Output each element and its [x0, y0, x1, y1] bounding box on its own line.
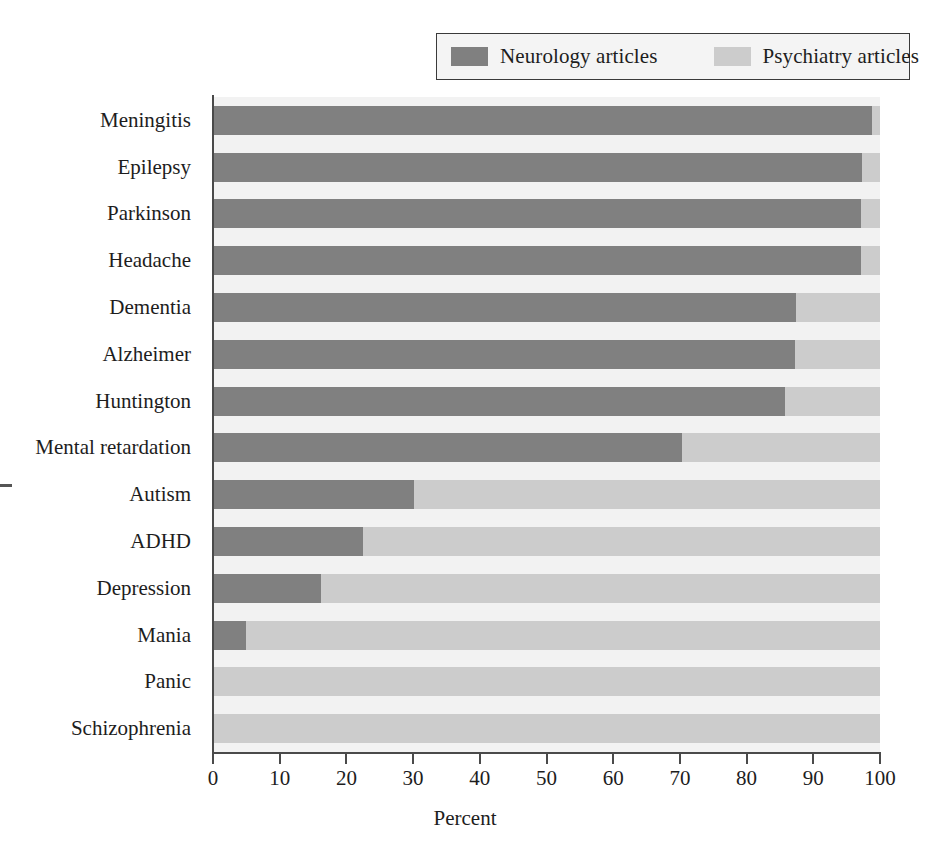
x-axis-title: Percent	[0, 806, 930, 831]
bar-row	[213, 714, 880, 743]
bar-segment-neurology	[213, 246, 861, 275]
bar-segment-psychiatry	[682, 433, 880, 462]
x-axis-tick-label: 60	[603, 766, 624, 791]
bar-segment-neurology	[213, 153, 862, 182]
x-axis-tick-label: 100	[864, 766, 896, 791]
x-axis-tick	[546, 754, 548, 764]
bar-segment-neurology	[213, 387, 785, 416]
y-axis-label: Alzheimer	[0, 340, 203, 369]
y-axis-line	[212, 95, 214, 754]
y-axis-label: Mental retardation	[0, 433, 203, 462]
bar-segment-psychiatry	[795, 340, 880, 369]
bar-segment-psychiatry	[246, 621, 880, 650]
chart-legend: Neurology articles Psychiatry articles	[436, 33, 910, 80]
bar-segment-psychiatry	[414, 480, 880, 509]
x-axis-tick	[746, 754, 748, 764]
legend-swatch-psychiatry	[714, 47, 751, 66]
x-axis-tick	[345, 754, 347, 764]
x-axis-tick	[679, 754, 681, 764]
bar-row	[213, 340, 880, 369]
x-axis-tick-label: 80	[736, 766, 757, 791]
y-axis-label: Panic	[0, 667, 203, 696]
x-axis-tick	[412, 754, 414, 764]
y-axis-label: Autism	[0, 480, 203, 509]
y-axis-label: Headache	[0, 246, 203, 275]
bar-row	[213, 480, 880, 509]
bar-segment-neurology	[213, 574, 321, 603]
x-axis-tick-label: 70	[669, 766, 690, 791]
bar-segment-neurology	[213, 106, 872, 135]
bar-row	[213, 246, 880, 275]
y-axis-label: ADHD	[0, 527, 203, 556]
bar-row	[213, 106, 880, 135]
scan-edge-mark	[0, 484, 12, 487]
bar-segment-psychiatry	[796, 293, 880, 322]
bar-segment-neurology	[213, 199, 861, 228]
x-axis-tick-label: 0	[208, 766, 219, 791]
x-axis-tick-label: 90	[803, 766, 824, 791]
bar-segment-psychiatry	[872, 106, 880, 135]
x-axis-tick-label: 40	[469, 766, 490, 791]
bar-segment-neurology	[213, 433, 682, 462]
bar-row	[213, 293, 880, 322]
bar-segment-psychiatry	[785, 387, 880, 416]
bar-row	[213, 527, 880, 556]
x-axis-tick	[612, 754, 614, 764]
x-axis-tick	[479, 754, 481, 764]
y-axis-label: Meningitis	[0, 106, 203, 135]
bar-row	[213, 433, 880, 462]
bar-segment-psychiatry	[861, 199, 880, 228]
legend-entry-psychiatry: Psychiatry articles	[714, 44, 919, 69]
bar-segment-psychiatry	[213, 714, 880, 743]
y-axis-label: Dementia	[0, 293, 203, 322]
x-axis-tick-labels: 0102030405060708090100	[0, 766, 930, 796]
bar-row	[213, 387, 880, 416]
bar-row	[213, 153, 880, 182]
bar-segment-neurology	[213, 480, 414, 509]
legend-label-psychiatry: Psychiatry articles	[763, 44, 919, 69]
x-axis-tick-label: 50	[536, 766, 557, 791]
bar-segment-neurology	[213, 527, 363, 556]
y-axis-label: Schizophrenia	[0, 714, 203, 743]
x-axis-tick	[279, 754, 281, 764]
x-axis-tick-label: 10	[269, 766, 290, 791]
bar-row	[213, 199, 880, 228]
legend-swatch-neurology	[451, 47, 488, 66]
bar-row	[213, 621, 880, 650]
x-axis-tick-label: 30	[403, 766, 424, 791]
bar-segment-neurology	[213, 621, 246, 650]
bar-segment-neurology	[213, 293, 796, 322]
legend-label-neurology: Neurology articles	[500, 44, 658, 69]
y-axis-label: Mania	[0, 621, 203, 650]
y-axis-label: Depression	[0, 574, 203, 603]
bar-segment-psychiatry	[862, 153, 880, 182]
bar-segment-psychiatry	[363, 527, 880, 556]
bar-segment-psychiatry	[321, 574, 880, 603]
x-axis-tick	[212, 754, 214, 764]
plot-area	[213, 97, 880, 752]
bar-segment-psychiatry	[213, 667, 880, 696]
x-axis-tick-label: 20	[336, 766, 357, 791]
y-axis-labels: MeningitisEpilepsyParkinsonHeadacheDemen…	[0, 97, 203, 752]
bar-segment-neurology	[213, 340, 795, 369]
bar-row	[213, 574, 880, 603]
bar-row	[213, 667, 880, 696]
y-axis-label: Huntington	[0, 387, 203, 416]
bar-segment-psychiatry	[861, 246, 880, 275]
legend-entry-neurology: Neurology articles	[451, 44, 658, 69]
chart-page: Neurology articles Psychiatry articles M…	[0, 0, 930, 850]
x-axis-tick	[879, 754, 881, 764]
y-axis-label: Epilepsy	[0, 153, 203, 182]
y-axis-label: Parkinson	[0, 199, 203, 228]
x-axis-tick	[812, 754, 814, 764]
